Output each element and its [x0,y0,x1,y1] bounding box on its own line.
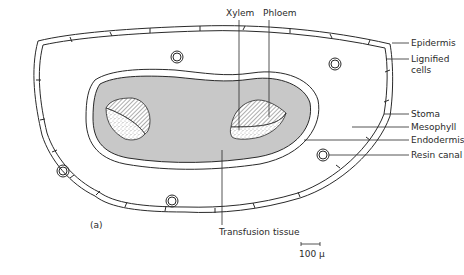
label-endodermis: Endodermis [411,135,464,145]
scale-bar [301,242,320,246]
label-lignified-cells-line2: cells [411,65,431,75]
scale-bar-label: 100 µ [299,249,325,259]
label-xylem: Xylem [226,8,254,18]
label-lignified-cells-line1: Lignified [411,54,449,64]
label-epidermis: Epidermis [411,38,456,48]
label-mesophyll: Mesophyll [411,122,456,132]
label-stoma: Stoma [411,109,440,119]
label-resin-canal: Resin canal [411,150,462,160]
label-phloem: Phloem [263,8,296,18]
label-transfusion-tissue: Transfusion tissue [219,227,300,237]
panel-label: (a) [90,220,103,230]
